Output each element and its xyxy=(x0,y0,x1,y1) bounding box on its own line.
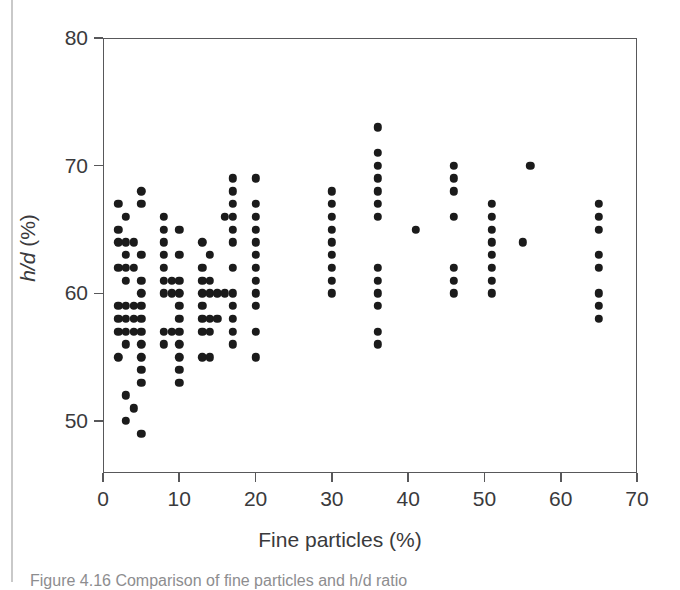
x-tick-mark xyxy=(331,473,333,482)
x-tick-mark xyxy=(636,473,638,482)
x-tick-mark xyxy=(102,473,104,482)
y-tick-label: 70 xyxy=(40,154,88,178)
y-tick-label: 80 xyxy=(40,26,88,50)
x-tick-mark xyxy=(560,473,562,482)
figure-caption: Figure 4.16 Comparison of fine particles… xyxy=(30,572,407,590)
x-tick-mark xyxy=(178,473,180,482)
y-axis-title: h/d (%) xyxy=(16,148,40,348)
y-tick-label: 60 xyxy=(40,281,88,305)
x-tick-mark xyxy=(255,473,257,482)
x-tick-label: 30 xyxy=(302,487,362,511)
x-tick-label: 60 xyxy=(531,487,591,511)
y-tick-mark xyxy=(94,293,103,295)
x-tick-label: 40 xyxy=(378,487,438,511)
y-tick-mark xyxy=(94,165,103,167)
y-tick-mark xyxy=(94,37,103,39)
y-axis-title-italic: h/d xyxy=(16,253,39,282)
x-tick-label: 10 xyxy=(149,487,209,511)
x-axis-title: Fine particles (%) xyxy=(0,528,680,552)
y-tick-label: 50 xyxy=(40,409,88,433)
plot-area xyxy=(103,38,637,473)
page-edge-rule xyxy=(11,0,13,582)
x-tick-label: 70 xyxy=(607,487,667,511)
x-tick-mark xyxy=(484,473,486,482)
x-tick-label: 50 xyxy=(454,487,514,511)
x-tick-label: 0 xyxy=(73,487,133,511)
y-axis-title-unit: (%) xyxy=(16,214,39,253)
x-tick-mark xyxy=(407,473,409,482)
x-tick-label: 20 xyxy=(226,487,286,511)
y-tick-mark xyxy=(94,420,103,422)
